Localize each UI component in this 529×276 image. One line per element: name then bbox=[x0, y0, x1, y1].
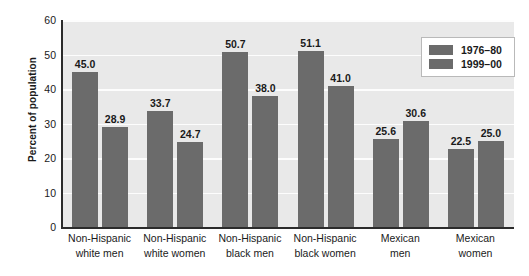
bar-value-label: 45.0 bbox=[65, 58, 105, 70]
x-axis-line bbox=[61, 227, 514, 229]
bar bbox=[102, 127, 128, 227]
y-axis-tick-label: 60 bbox=[24, 14, 56, 26]
bar-value-label: 51.1 bbox=[291, 37, 331, 49]
x-axis-category-label-line: Non-Hispanic bbox=[62, 231, 137, 246]
x-axis-category-label-line: women bbox=[438, 246, 513, 261]
y-axis-tick-label: 20 bbox=[24, 152, 56, 164]
x-axis-category-label: Non-Hispanicblack women bbox=[288, 231, 363, 260]
bar bbox=[373, 139, 399, 227]
y-axis-tick-label: 30 bbox=[24, 118, 56, 130]
x-axis-category-label-line: Mexican bbox=[438, 231, 513, 246]
bar-value-label: 33.7 bbox=[140, 97, 180, 109]
x-axis-category-label-line: Mexican bbox=[363, 231, 438, 246]
x-axis-category-label-line: Non-Hispanic bbox=[212, 231, 287, 246]
bar bbox=[177, 142, 203, 227]
bar bbox=[252, 96, 278, 227]
y-axis-tick-label: 40 bbox=[24, 83, 56, 95]
x-axis-category-label: Mexicanwomen bbox=[438, 231, 513, 260]
x-axis-category-label-line: black women bbox=[288, 246, 363, 261]
x-axis-category-label-line: white men bbox=[62, 246, 137, 261]
bar-value-label: 50.7 bbox=[215, 38, 255, 50]
x-axis-category-label-line: Non-Hispanic bbox=[137, 231, 212, 246]
x-axis-category-label: Non-Hispanicwhite women bbox=[137, 231, 212, 260]
x-axis-category-label-line: black men bbox=[212, 246, 287, 261]
bar-value-label: 25.0 bbox=[471, 127, 511, 139]
x-axis-category-label-line: white women bbox=[137, 246, 212, 261]
bar-value-label: 38.0 bbox=[245, 82, 285, 94]
bar bbox=[403, 121, 429, 227]
bar bbox=[478, 141, 504, 227]
bar-value-label: 24.7 bbox=[170, 128, 210, 140]
bar-chart: Percent of population 0102030405060 45.0… bbox=[0, 0, 529, 276]
y-axis-tick-labels: 0102030405060 bbox=[24, 14, 56, 227]
legend-item: 1999–00 bbox=[429, 57, 508, 71]
bar-value-label: 25.6 bbox=[366, 125, 406, 137]
x-axis-category-label-line: Non-Hispanic bbox=[288, 231, 363, 246]
y-axis-tick-label: 50 bbox=[24, 49, 56, 61]
x-axis-category-label-line: men bbox=[363, 246, 438, 261]
y-axis-tick-label: 0 bbox=[24, 221, 56, 233]
legend: 1976–801999–00 bbox=[421, 37, 515, 77]
x-axis-category-labels: Non-Hispanicwhite menNon-Hispanicwhite w… bbox=[62, 231, 514, 273]
bar bbox=[222, 52, 248, 227]
bar bbox=[448, 149, 474, 227]
legend-swatch-icon bbox=[429, 59, 453, 69]
legend-item: 1976–80 bbox=[429, 43, 508, 57]
bar bbox=[328, 86, 354, 227]
bar-value-label: 28.9 bbox=[95, 113, 135, 125]
bar-value-label: 30.6 bbox=[396, 107, 436, 119]
y-axis-tick-label: 10 bbox=[24, 187, 56, 199]
bar bbox=[72, 72, 98, 227]
x-axis-category-label: Mexicanmen bbox=[363, 231, 438, 260]
x-axis-category-label: Non-Hispanicwhite men bbox=[62, 231, 137, 260]
legend-swatch-icon bbox=[429, 45, 453, 55]
legend-label: 1999–00 bbox=[461, 58, 502, 70]
x-axis-category-label: Non-Hispanicblack men bbox=[212, 231, 287, 260]
legend-label: 1976–80 bbox=[461, 44, 502, 56]
bar-value-label: 41.0 bbox=[321, 72, 361, 84]
